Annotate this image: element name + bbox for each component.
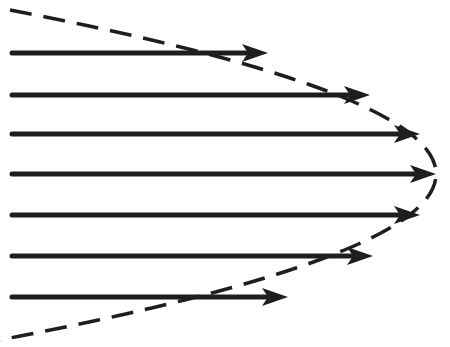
velocity-arrow — [12, 125, 420, 143]
velocity-arrow — [12, 247, 373, 265]
velocity-arrows — [12, 44, 436, 306]
diagram-canvas — [0, 0, 450, 347]
velocity-arrow — [12, 165, 436, 183]
velocity-arrow — [12, 206, 420, 224]
velocity-arrow — [12, 288, 288, 306]
velocity-profile-diagram — [0, 0, 450, 347]
